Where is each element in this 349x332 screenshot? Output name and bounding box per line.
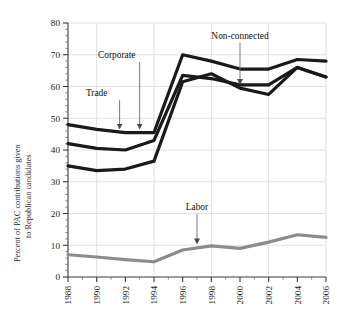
y-tick-label: 70 bbox=[51, 50, 61, 60]
x-tick-label: 1996 bbox=[178, 286, 188, 305]
chart-canvas: 01020304050607080 1988199019921994199619… bbox=[0, 0, 349, 332]
y-tick-label: 10 bbox=[51, 241, 61, 251]
x-tick-label: 2000 bbox=[235, 286, 245, 305]
x-tick-label: 2002 bbox=[264, 286, 274, 305]
y-tick-label: 80 bbox=[51, 18, 61, 28]
y-axis-title-line-2: to Republican candidates bbox=[24, 155, 33, 238]
x-axis-ticks: 1988199019921994199619982000200220042006 bbox=[63, 277, 331, 304]
series-line-non-connected bbox=[68, 67, 326, 170]
series-line-corporate bbox=[68, 67, 326, 150]
y-tick-label: 0 bbox=[55, 272, 60, 282]
y-tick-label: 60 bbox=[51, 82, 61, 92]
x-tick-label: 1988 bbox=[63, 286, 73, 305]
series-annotations: TradeCorporateNon-connectedLabor bbox=[86, 31, 269, 242]
x-tick-label: 2006 bbox=[321, 286, 331, 305]
annotation-label-non-connected: Non-connected bbox=[211, 31, 269, 41]
y-axis-ticks: 01020304050607080 bbox=[51, 18, 68, 282]
y-axis-title-line-1: Percent of PAC contributions given bbox=[13, 143, 22, 262]
x-tick-label: 2004 bbox=[293, 286, 303, 305]
x-tick-label: 1994 bbox=[149, 286, 159, 305]
x-tick-label: 1992 bbox=[121, 286, 131, 305]
y-tick-label: 30 bbox=[51, 177, 61, 187]
y-tick-label: 20 bbox=[51, 209, 61, 219]
y-tick-label: 40 bbox=[51, 145, 61, 155]
y-tick-label: 50 bbox=[51, 114, 61, 124]
annotation-label-labor: Labor bbox=[186, 202, 209, 212]
y-axis-title: Percent of PAC contributions given to Re… bbox=[13, 143, 33, 262]
annotation-label-trade: Trade bbox=[86, 88, 108, 98]
x-tick-label: 1990 bbox=[92, 286, 102, 305]
pac-contributions-line-chart: 01020304050607080 1988199019921994199619… bbox=[0, 0, 349, 332]
x-tick-label: 1998 bbox=[207, 286, 217, 305]
annotation-label-corporate: Corporate bbox=[98, 50, 136, 60]
